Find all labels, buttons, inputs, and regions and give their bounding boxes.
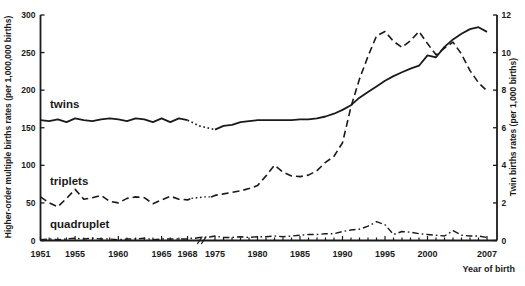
y-left-tick-label: 50 [26,198,36,208]
twins-line [215,27,487,129]
plot-area: 0501001502002503000246810121951195519601… [0,0,525,286]
x-tick-label: 1985 [290,249,310,259]
y-right-tick-label: 6 [502,123,507,133]
series-label-twins: twins [50,98,79,110]
y-left-tick-label: 200 [21,85,35,95]
chart: 0501001502002503000246810121951195519601… [0,0,525,286]
triplets-line [211,32,487,197]
y-left-tick-label: 100 [21,160,35,170]
y-left-tick-label: 250 [21,48,35,58]
y-right-tick-label: 8 [502,85,507,95]
twins-line [41,118,188,122]
twins-line-interpolated [188,120,215,129]
x-tick-label: 1960 [108,249,128,259]
x-tick-label: 1995 [375,249,395,259]
series-label-triplets: triplets [50,175,88,187]
x-tick-label: 1968 [178,249,198,259]
x-tick-label: 1975 [205,249,225,259]
y-left-tick-label: 0 [31,236,36,246]
triplets-line-interpolated [192,197,212,199]
x-tick-label: 1980 [247,249,267,259]
y-right-tick-label: 0 [502,236,507,246]
x-axis-title: Year of birth [462,264,515,274]
x-tick-label: 1965 [152,249,172,259]
triplets-line [41,189,192,206]
y-axis-right-title: Twin births rates (per 1,000 births) [507,27,519,227]
y-right-tick-label: 4 [502,160,507,170]
x-tick-label: 1955 [65,249,85,259]
y-right-tick-label: 12 [502,10,512,20]
x-tick-label: 2007 [477,249,497,259]
x-tick-label: 2000 [417,249,437,259]
series-label-quadruplet: quadruplet [50,218,109,230]
y-axis-left-title: Higher-order multiple births rates (per … [2,2,14,252]
y-right-tick-label: 2 [502,198,507,208]
x-tick-label: 1951 [30,249,50,259]
x-tick-label: 1990 [332,249,352,259]
y-left-tick-label: 150 [21,123,35,133]
y-left-tick-label: 300 [21,10,35,20]
